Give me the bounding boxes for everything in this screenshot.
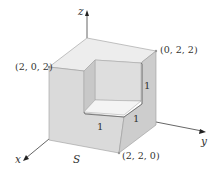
y-axis-arrow-icon xyxy=(199,129,206,134)
x-axis xyxy=(26,139,49,158)
y-axis xyxy=(156,122,202,131)
vertex-label-2-2-0: (2, 2, 0) xyxy=(122,150,160,161)
notch-back-wall xyxy=(95,60,141,101)
surface-diagram: z x y (2, 0, 2) (0, 2, 2) (2, 2, 0) S 1 … xyxy=(0,0,219,174)
z-axis-arrow-icon xyxy=(85,10,89,16)
x-axis-label: x xyxy=(15,153,21,165)
vertex-label-2-0-2: (2, 0, 2) xyxy=(15,61,53,72)
surface-label: S xyxy=(73,153,80,165)
vertex-label-0-2-2: (0, 2, 2) xyxy=(160,44,198,55)
edge-label-shelf-right: 1 xyxy=(133,113,139,124)
edge-label-vertical: 1 xyxy=(144,80,150,91)
vertex-2-2-0 xyxy=(118,152,120,154)
cube-drawing: z x y (2, 0, 2) (0, 2, 2) (2, 2, 0) S 1 … xyxy=(0,0,219,174)
vertex-0-2-2 xyxy=(155,50,157,52)
z-axis-label: z xyxy=(77,5,84,17)
edge-label-shelf-front: 1 xyxy=(97,121,103,132)
y-axis-label: y xyxy=(200,135,208,147)
